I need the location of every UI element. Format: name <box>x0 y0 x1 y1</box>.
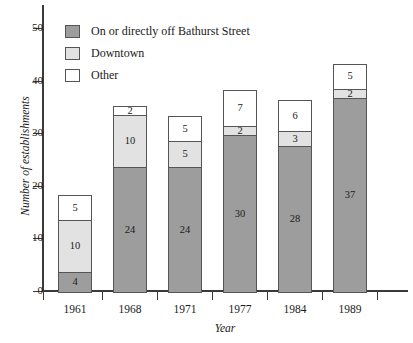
bar-segment-value-label: 3 <box>292 134 297 145</box>
bar-group[interactable]: 5524 <box>168 116 202 292</box>
bar-segment[interactable]: 10 <box>113 115 147 168</box>
bar-group[interactable]: 5104 <box>58 195 92 292</box>
bar-group[interactable]: 21024 <box>113 106 147 292</box>
bar-segment[interactable]: 24 <box>113 167 147 293</box>
bar-segment[interactable]: 5 <box>58 195 92 221</box>
bar-chart: 01020304050 196119681971197719841989 Num… <box>0 0 413 343</box>
bar-segment[interactable]: 30 <box>223 135 257 293</box>
bar-segment[interactable]: 10 <box>58 220 92 273</box>
legend-swatch-dark-gray <box>65 25 80 38</box>
bar-segment-value-label: 30 <box>235 209 246 220</box>
bar-segment[interactable]: 6 <box>278 100 312 132</box>
bar-group[interactable]: 6328 <box>278 100 312 292</box>
bar-segment[interactable]: 3 <box>278 131 312 147</box>
legend-item-label: On or directly off Bathurst Street <box>91 25 250 38</box>
legend-swatch-white <box>65 69 80 82</box>
bar-segment[interactable]: 5 <box>168 141 202 167</box>
bar-group[interactable]: 5237 <box>333 64 367 292</box>
legend-item[interactable]: On or directly off Bathurst Street <box>65 20 250 42</box>
bar-segment-value-label: 5 <box>182 124 187 135</box>
legend-item-label: Downtown <box>91 47 144 60</box>
bar-segment-value-label: 7 <box>237 103 242 114</box>
bar-segment-value-label: 5 <box>72 203 77 214</box>
bar-segment[interactable]: 7 <box>223 90 257 127</box>
bar-segment-value-label: 28 <box>290 214 301 225</box>
legend-item-label: Other <box>91 69 118 82</box>
legend-item[interactable]: Downtown <box>65 42 250 64</box>
bar-segment[interactable]: 5 <box>168 116 202 142</box>
bar-segment-value-label: 10 <box>125 136 136 147</box>
legend-item[interactable]: Other <box>65 64 250 86</box>
bar-segment-value-label: 10 <box>70 241 81 252</box>
bar-segment[interactable]: 4 <box>58 272 92 293</box>
bar-segment[interactable]: 24 <box>168 167 202 293</box>
bar-segment[interactable]: 28 <box>278 146 312 293</box>
bar-segment-value-label: 24 <box>180 225 191 236</box>
legend-swatch-light-gray <box>65 47 80 60</box>
bar-segment[interactable]: 5 <box>333 64 367 90</box>
bar-segment-value-label: 24 <box>125 225 136 236</box>
bar-segment-value-label: 5 <box>182 149 187 160</box>
bar-segment-value-label: 37 <box>345 190 356 201</box>
bar-segment-value-label: 6 <box>292 111 297 122</box>
bar-segment-value-label: 4 <box>72 277 77 288</box>
bar-segment-value-label: 5 <box>347 71 352 82</box>
bar-segment[interactable]: 37 <box>333 98 367 293</box>
chart-legend: On or directly off Bathurst StreetDownto… <box>65 20 250 86</box>
bar-group[interactable]: 7230 <box>223 90 257 292</box>
